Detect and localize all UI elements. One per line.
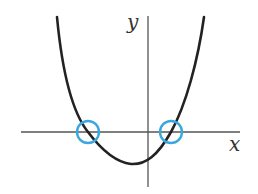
function-graph: y x bbox=[0, 0, 258, 194]
x-axis-label: x bbox=[229, 134, 240, 154]
function-curve bbox=[57, 17, 204, 164]
y-axis-label: y bbox=[127, 12, 138, 32]
